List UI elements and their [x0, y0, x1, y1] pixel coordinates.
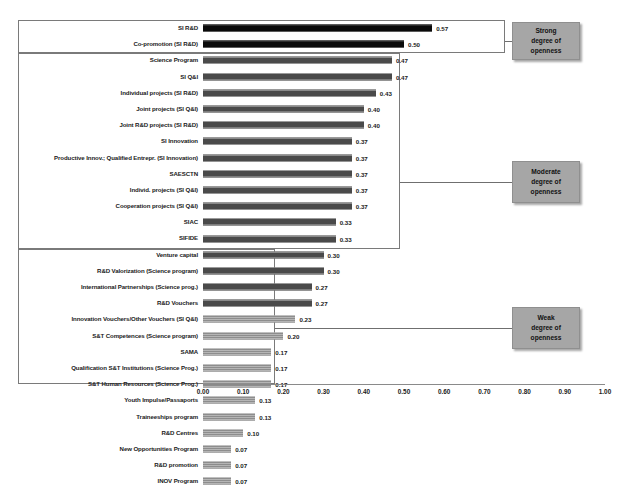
x-axis: 0.000.100.200.300.400.500.600.700.800.90…: [0, 384, 626, 412]
bar-weak: [203, 332, 283, 339]
bar-category-label: Productive Innov.; Qualified Entrepr. (S…: [0, 155, 203, 161]
x-axis-line: [203, 384, 605, 385]
bar-value-label: 0.40: [368, 122, 380, 129]
bar-category-label: Science Program: [0, 57, 203, 63]
bar-track: 0.30: [203, 263, 626, 279]
bar-value-label: 0.27: [316, 300, 328, 307]
bar-weak: [203, 429, 243, 436]
bar-track: 0.33: [203, 230, 626, 246]
bar-category-label: Qualification S&T Institutions (Science …: [0, 365, 203, 371]
bar-value-label: 0.07: [235, 478, 247, 485]
bar-category-label: SAMA: [0, 349, 203, 355]
bar-track: 0.17: [203, 360, 626, 376]
bar-track: 0.30: [203, 247, 626, 263]
bar-category-label: SI Q&I: [0, 74, 203, 80]
bar-category-label: R&D Vouchers: [0, 300, 203, 306]
x-tick-label: 0.60: [438, 388, 450, 395]
bar-strong: [203, 25, 432, 32]
chart-row: INOV Program0.07: [0, 473, 626, 489]
bar-category-label: Venture capital: [0, 252, 203, 258]
bar-weak: [203, 413, 255, 420]
bar-category-label: R&D promotion: [0, 462, 203, 468]
bar-category-label: New Opportunities Program: [0, 446, 203, 452]
x-tick-label: 1.00: [599, 388, 611, 395]
bar-value-label: 0.37: [356, 170, 368, 177]
legend-box-strong: Strong degree of openness: [512, 22, 580, 60]
bar-track: 0.40: [203, 117, 626, 133]
bar-rows: SI R&D0.57Co-promotion (SI R&D)0.50Scien…: [0, 20, 626, 489]
bar-value-label: 0.37: [356, 203, 368, 210]
bar-value-label: 0.37: [356, 154, 368, 161]
bar-track: 0.10: [203, 425, 626, 441]
bar-category-label: INOV Program: [0, 478, 203, 484]
bar-moderate: [203, 122, 364, 129]
x-tick-label: 0.10: [237, 388, 249, 395]
bar-value-label: 0.30: [328, 251, 340, 258]
chart-row: Individual projects (SI R&D)0.43: [0, 85, 626, 101]
bar-moderate: [203, 300, 312, 307]
bar-moderate: [203, 154, 352, 161]
bar-weak: [203, 478, 231, 485]
legend-weak-line3: openness: [531, 334, 562, 341]
bar-track: 0.40: [203, 101, 626, 117]
bar-value-label: 0.07: [235, 462, 247, 469]
x-tick-label: 0.90: [559, 388, 571, 395]
chart-row: SIAC0.33: [0, 214, 626, 230]
bar-category-label: SIAC: [0, 219, 203, 225]
bar-value-label: 0.47: [396, 73, 408, 80]
bar-weak: [203, 445, 231, 452]
bar-moderate: [203, 186, 352, 193]
bar-moderate: [203, 170, 352, 177]
x-tick-label: 0.70: [478, 388, 490, 395]
chart-row: R&D Centres0.10: [0, 425, 626, 441]
bar-weak: [203, 365, 271, 372]
chart-row: Joint projects (SI Q&I)0.40: [0, 101, 626, 117]
x-tick-label: 0.30: [317, 388, 329, 395]
bar-track: 0.27: [203, 279, 626, 295]
bar-category-label: Co-promotion (SI R&D): [0, 41, 203, 47]
bar-value-label: 0.17: [275, 348, 287, 355]
bar-category-label: Individ. projects (SI Q&I): [0, 187, 203, 193]
bar-value-label: 0.23: [299, 316, 311, 323]
legend-strong-line3: openness: [531, 47, 562, 54]
legend-weak-line1: Weak: [537, 314, 554, 321]
bar-track: 0.07: [203, 473, 626, 489]
bar-moderate: [203, 138, 352, 145]
bar-value-label: 0.47: [396, 57, 408, 64]
bar-value-label: 0.37: [356, 186, 368, 193]
bar-category-label: International Partnerships (Science prog…: [0, 284, 203, 290]
legend-moderate-line2: degree of: [531, 178, 561, 185]
bar-category-label: SAESCTN: [0, 171, 203, 177]
bar-value-label: 0.30: [328, 267, 340, 274]
bar-category-label: SI R&D: [0, 25, 203, 31]
legend-weak-line2: degree of: [531, 324, 561, 331]
chart-row: R&D Valorization (Science program)0.30: [0, 263, 626, 279]
connector-weak: [275, 328, 513, 329]
bar-value-label: 0.10: [247, 429, 259, 436]
bar-track: 0.07: [203, 457, 626, 473]
bar-weak: [203, 462, 231, 469]
bar-moderate: [203, 284, 312, 291]
bar-value-label: 0.43: [380, 89, 392, 96]
chart-row: SI Innovation0.37: [0, 133, 626, 149]
bar-strong: [203, 41, 404, 48]
bar-value-label: 0.20: [287, 332, 299, 339]
legend-moderate-line1: Moderate: [531, 168, 560, 175]
chart-row: International Partnerships (Science prog…: [0, 279, 626, 295]
bar-moderate: [203, 73, 392, 80]
bar-category-label: Joint R&D projects (SI R&D): [0, 122, 203, 128]
bar-category-label: R&D Centres: [0, 430, 203, 436]
bar-category-label: Individual projects (SI R&D): [0, 90, 203, 96]
bar-value-label: 0.33: [340, 219, 352, 226]
bar-category-label: S&T Competences (Science program): [0, 333, 203, 339]
bar-weak: [203, 316, 295, 323]
bar-track: 0.07: [203, 441, 626, 457]
chart-row: Joint R&D projects (SI R&D)0.40: [0, 117, 626, 133]
bar-value-label: 0.40: [368, 106, 380, 113]
bar-category-label: Joint projects (SI Q&I): [0, 106, 203, 112]
chart-row: New Opportunities Program0.07: [0, 441, 626, 457]
bar-moderate: [203, 203, 352, 210]
chart-row: SIFIDE0.33: [0, 230, 626, 246]
bar-moderate: [203, 219, 336, 226]
